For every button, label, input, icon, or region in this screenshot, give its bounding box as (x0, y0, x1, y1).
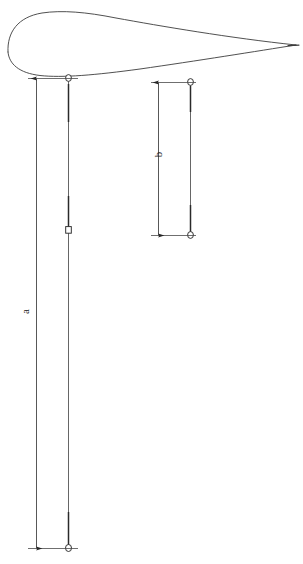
node-marker-bottom-b-icon (188, 232, 194, 239)
airfoil-lower-surface (8, 45, 296, 76)
node-marker-top-a-icon (66, 75, 72, 82)
leader-line-b-group (188, 79, 194, 239)
dimension-a-label: a (20, 305, 31, 319)
dimension-a-group (28, 79, 78, 549)
diagram-canvas (0, 0, 303, 564)
airfoil-trailing-edge-tip (288, 45, 299, 46)
airfoil-dimension-diagram: a b (0, 0, 303, 564)
node-marker-middle-a-icon (66, 227, 72, 234)
airfoil-outline-group (8, 12, 299, 77)
dimension-b-label: b (153, 148, 164, 162)
node-marker-top-b-icon (188, 79, 194, 86)
airfoil-upper-surface (8, 12, 296, 52)
leader-line-a-group (66, 75, 72, 552)
node-marker-bottom-a-icon (66, 545, 72, 552)
